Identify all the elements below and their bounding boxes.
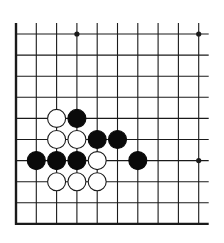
star-point-icon <box>196 158 201 163</box>
grid-lines <box>15 23 209 225</box>
white-stone-icon <box>88 173 106 191</box>
white-stone-icon <box>88 152 106 170</box>
star-point-icon <box>196 31 201 36</box>
white-stone-icon <box>68 131 86 149</box>
black-stone-icon <box>27 152 45 170</box>
white-stone-icon <box>68 173 86 191</box>
white-stone-icon <box>48 131 66 149</box>
white-stone-icon <box>48 173 66 191</box>
black-stone-icon <box>88 131 106 149</box>
black-stone-icon <box>109 131 127 149</box>
stones <box>27 109 147 190</box>
black-stone-icon <box>48 152 66 170</box>
star-point-icon <box>74 31 79 36</box>
black-stone-icon <box>68 152 86 170</box>
black-stone-icon <box>129 152 147 170</box>
black-stone-icon <box>68 109 86 127</box>
go-board <box>0 0 224 243</box>
white-stone-icon <box>48 109 66 127</box>
